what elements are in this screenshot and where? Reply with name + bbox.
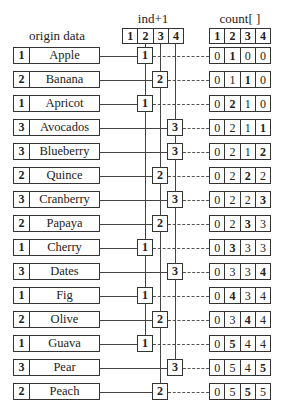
count-header-cell: 2 [224,29,239,43]
count-array-row: 0555 [209,383,271,400]
dashed-connector [183,152,209,153]
ind-value-box: 1 [137,95,153,112]
count-cell: 3 [255,192,270,207]
count-cell: 0 [255,96,270,111]
dashed-connector [168,392,209,393]
ind-value-box: 3 [167,359,183,376]
count-cell: 1 [255,120,270,135]
solid-connector [100,152,167,153]
ind-value-box: 3 [167,263,183,280]
ind-value-box: 2 [152,311,168,328]
origin-data-row: 1Fig [13,287,100,304]
count-array-row: 0233 [209,215,271,232]
origin-key: 1 [14,96,30,111]
origin-name: Pear [30,360,99,375]
ind-value-box: 1 [137,47,153,64]
ind-header-cells: 1 2 3 4 [122,28,184,44]
count-array-row: 0333 [209,239,271,256]
ind-value-box: 3 [167,143,183,160]
origin-name: Papaya [30,216,99,231]
count-cell: 0 [210,216,224,231]
origin-data-row: 2Olive [13,311,100,328]
count-array-heading: count[ ] [209,11,271,27]
origin-name: Fig [30,288,99,303]
count-cell: 3 [255,240,270,255]
origin-data-row: 3Avocados [13,119,100,136]
count-cell: 0 [210,192,224,207]
origin-name: Dates [30,264,99,279]
solid-connector [100,344,137,345]
ind-value-box: 2 [152,215,168,232]
count-cell: 0 [240,48,255,63]
origin-key: 1 [14,48,30,63]
count-cell: 0 [255,72,270,87]
origin-key: 3 [14,192,30,207]
count-cell: 2 [224,96,239,111]
ind-value-box: 1 [137,239,153,256]
dashed-connector [153,296,209,297]
count-header-cell: 1 [210,29,224,43]
origin-name: Apricot [30,96,99,111]
solid-connector [100,104,137,105]
origin-data-heading: origin data [13,28,101,44]
ind-header-cell: 1 [123,29,137,43]
count-cell: 1 [224,72,239,87]
origin-data-row: 1Apple [13,47,100,64]
dashed-connector [183,368,209,369]
count-cell: 1 [240,72,255,87]
origin-data-row: 3Dates [13,263,100,280]
count-cell: 0 [255,48,270,63]
ind-value-box: 1 [137,335,153,352]
ind-header-cell: 3 [153,29,168,43]
count-cell: 2 [224,120,239,135]
count-array-row: 0110 [209,71,271,88]
count-cell: 5 [224,336,239,351]
count-cell: 5 [255,360,270,375]
dashed-connector [153,344,209,345]
count-cell: 4 [240,336,255,351]
count-cell: 1 [224,48,239,63]
count-cell: 3 [240,216,255,231]
origin-data-row: 1Cherry [13,239,100,256]
count-cell: 3 [224,264,239,279]
count-array-row: 0544 [209,335,271,352]
origin-key: 2 [14,312,30,327]
count-array-row: 0334 [209,263,271,280]
count-cell: 0 [210,72,224,87]
origin-data-row: 3Blueberry [13,143,100,160]
count-array-row: 0211 [209,119,271,136]
origin-key: 2 [14,216,30,231]
origin-name: Guava [30,336,99,351]
count-cell: 4 [240,312,255,327]
dashed-connector [153,248,209,249]
origin-name: Blueberry [30,144,99,159]
count-array-row: 0344 [209,311,271,328]
count-cell: 0 [210,384,224,399]
count-array-row: 0545 [209,359,271,376]
count-cell: 3 [224,240,239,255]
count-cell: 0 [210,168,224,183]
ind-header-cell: 4 [168,29,183,43]
count-cell: 3 [224,312,239,327]
origin-data-row: 3Pear [13,359,100,376]
count-cell: 3 [240,240,255,255]
ind-value-box: 2 [152,167,168,184]
count-cell: 5 [224,384,239,399]
ind-value-box: 3 [167,119,183,136]
count-array-row: 0212 [209,143,271,160]
count-cell: 0 [210,312,224,327]
count-cell: 2 [240,168,255,183]
ind-value-box: 2 [152,71,168,88]
origin-name: Avocados [30,120,99,135]
dashed-connector [183,128,209,129]
count-cell: 2 [224,144,239,159]
count-header-cell: 3 [240,29,255,43]
count-cell: 4 [255,336,270,351]
count-cell: 5 [224,360,239,375]
count-cell: 4 [255,288,270,303]
count-header-cells: 1 2 3 4 [209,28,271,44]
dashed-connector [183,200,209,201]
origin-name: Quince [30,168,99,183]
origin-key: 1 [14,288,30,303]
origin-data-row: 2Banana [13,71,100,88]
